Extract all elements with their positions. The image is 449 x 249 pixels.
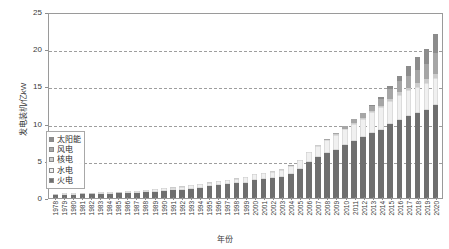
x-tick: 1993 (186, 200, 195, 232)
bar-group (123, 14, 132, 198)
x-axis-tick-label: 2010 (342, 201, 349, 215)
x-axis-tick-label: 1997 (224, 201, 231, 215)
bar-segment-火电 (342, 145, 348, 198)
x-tick: 2014 (377, 200, 386, 232)
bar-segment-水电 (297, 160, 303, 169)
x-tick: 1987 (132, 200, 141, 232)
bar-group (214, 14, 223, 198)
legend-label: 太阳能 (57, 135, 81, 144)
bar-segment-火电 (324, 153, 330, 198)
x-tick: 1992 (177, 200, 186, 232)
x-tick: 1983 (95, 200, 104, 232)
x-axis-tick-label: 2015 (388, 201, 395, 215)
x-tick: 2020 (432, 200, 441, 232)
bar-group (223, 14, 232, 198)
bar-group (413, 14, 422, 198)
bar-segment-水电 (369, 112, 375, 133)
x-axis-tick-mark (309, 197, 310, 200)
bar-segment-火电 (378, 130, 384, 198)
bar-group (151, 14, 160, 198)
x-axis-tick-mark (118, 197, 119, 200)
bar-segment-风电 (415, 70, 421, 84)
y-axis-tick-mark (45, 125, 48, 126)
legend-swatch-icon (49, 168, 54, 173)
stacked-bar (225, 180, 231, 198)
bar-segment-太阳能 (433, 34, 439, 53)
x-axis-tick-mark (91, 197, 92, 200)
bar-segment-风电 (387, 89, 393, 99)
bar-group (169, 14, 178, 198)
bar-segment-水电 (351, 124, 357, 141)
x-axis-tick-mark (336, 197, 337, 200)
y-axis-tick-label: 10 (16, 120, 42, 129)
bar-segment-火电 (424, 110, 430, 198)
x-tick: 2018 (414, 200, 423, 232)
bar-segment-水电 (324, 140, 330, 153)
x-axis-tick-mark (127, 197, 128, 200)
x-axis-tick-mark (236, 197, 237, 200)
x-axis-tick-label: 2019 (424, 201, 431, 215)
x-axis-tick-label: 2003 (278, 201, 285, 215)
x-axis-tick-mark (109, 197, 110, 200)
x-tick: 2001 (259, 200, 268, 232)
x-axis-tick-label: 2007 (315, 201, 322, 215)
x-axis-tick-label: 1982 (87, 201, 94, 215)
bar-group (395, 14, 404, 198)
x-axis-tick-mark (218, 197, 219, 200)
x-tick: 1989 (150, 200, 159, 232)
x-tick: 2013 (368, 200, 377, 232)
x-axis-tick-label: 1979 (60, 201, 67, 215)
bar-segment-水电 (406, 90, 412, 115)
y-axis-title: 发电装机/亿kW (17, 45, 28, 175)
bar-group (295, 14, 304, 198)
bar-segment-火电 (261, 179, 267, 198)
stacked-bar (324, 139, 330, 198)
x-tick: 1990 (159, 200, 168, 232)
x-tick: 1995 (205, 200, 214, 232)
x-axis-tick-label: 1989 (151, 201, 158, 215)
x-axis-tick-mark (191, 197, 192, 200)
legend-swatch-icon (49, 157, 54, 162)
x-axis-tick-label: 1978 (51, 201, 58, 215)
stacked-bar (406, 66, 412, 198)
stacked-bar (351, 119, 357, 198)
legend-swatch-icon (49, 137, 54, 142)
x-axis-tick-mark (436, 197, 437, 200)
x-axis-tick-label: 1998 (233, 201, 240, 215)
bar-segment-风电 (433, 53, 439, 74)
bar-group (114, 14, 123, 198)
bar-group (105, 14, 114, 198)
bar-segment-水电 (387, 101, 393, 125)
x-axis-tick-labels: 1978197919801981198219831984198519861987… (48, 200, 443, 232)
x-axis-tick-label: 1981 (78, 201, 85, 215)
x-axis-tick-mark (318, 197, 319, 200)
x-axis-tick-mark (164, 197, 165, 200)
bar-group (196, 14, 205, 198)
bar-segment-太阳能 (424, 49, 430, 64)
x-tick: 2005 (296, 200, 305, 232)
x-axis-tick-label: 1996 (215, 201, 222, 215)
x-tick: 2011 (350, 200, 359, 232)
bar-group (178, 14, 187, 198)
bar-group (322, 14, 331, 198)
x-axis-tick-label: 1990 (160, 201, 167, 215)
x-axis-tick-mark (346, 197, 347, 200)
stacked-bar (234, 178, 240, 198)
x-axis-tick-label: 1987 (133, 201, 140, 215)
bar-segment-火电 (297, 169, 303, 198)
x-tick: 1998 (232, 200, 241, 232)
x-axis-tick-label: 2020 (433, 201, 440, 215)
x-tick: 1982 (86, 200, 95, 232)
x-tick: 1986 (123, 200, 132, 232)
bar-group (96, 14, 105, 198)
bar-group (331, 14, 340, 198)
chart-legend: 太阳能风电核电水电火电 (46, 131, 85, 189)
x-axis-tick-mark (391, 197, 392, 200)
x-tick: 1978 (50, 200, 59, 232)
bar-segment-太阳能 (415, 57, 421, 70)
bar-segment-风电 (406, 76, 412, 88)
x-axis-tick-mark (246, 197, 247, 200)
stacked-bar (243, 177, 249, 198)
x-axis-tick-label: 2018 (415, 201, 422, 215)
bar-group (268, 14, 277, 198)
